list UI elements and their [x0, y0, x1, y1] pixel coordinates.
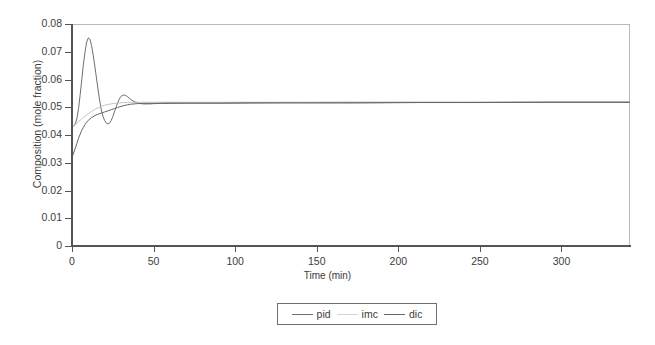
x-tick	[154, 247, 155, 252]
x-tick-label: 300	[553, 255, 571, 267]
y-tick	[65, 246, 71, 247]
x-axis-title: Time (min)	[0, 270, 655, 281]
y-tick-label: 0.02	[42, 185, 62, 196]
series-line-pid	[72, 38, 630, 127]
y-tick	[65, 52, 71, 53]
y-tick-label: 0.08	[42, 18, 62, 29]
series-line-imc	[72, 102, 630, 127]
y-tick	[65, 24, 71, 25]
legend-label: dic	[409, 309, 422, 320]
legend-swatch-pid-icon	[292, 314, 313, 315]
legend-label: pid	[317, 309, 331, 320]
legend-swatch-imc-icon	[337, 314, 358, 315]
y-tick-label: 0.03	[42, 157, 62, 168]
x-tick	[317, 247, 318, 252]
x-tick-label: 150	[308, 255, 326, 267]
legend-swatch-dic-icon	[384, 314, 405, 315]
y-tick	[65, 135, 71, 136]
y-tick	[65, 191, 71, 192]
y-tick	[65, 218, 71, 219]
x-axis-line	[71, 245, 631, 247]
x-tick	[398, 247, 399, 252]
y-axis-line	[71, 24, 73, 247]
y-tick	[65, 80, 71, 81]
x-tick	[72, 247, 73, 252]
x-tick-label: 0	[69, 255, 75, 267]
y-tick-label: 0	[56, 240, 62, 251]
y-axis-title: Composition (mole fraction)	[31, 9, 43, 239]
y-tick-label: 0.06	[42, 74, 62, 85]
y-tick-label: 0.07	[42, 46, 62, 57]
x-tick-label: 250	[471, 255, 489, 267]
y-tick-label: 0.05	[42, 101, 62, 112]
x-tick	[480, 247, 481, 252]
chart-figure: 00.010.020.030.040.050.060.070.08 050100…	[0, 0, 655, 345]
legend-entry-imc: imc	[337, 309, 378, 320]
x-tick-label: 50	[148, 255, 160, 267]
y-tick	[65, 163, 71, 164]
legend-entry-pid: pid	[292, 309, 331, 320]
legend-label: imc	[362, 309, 378, 320]
y-tick-label: 0.01	[42, 212, 62, 223]
x-tick	[235, 247, 236, 252]
series-line-dic	[72, 102, 630, 157]
chart-legend: pidimcdic	[277, 303, 437, 325]
x-tick-label: 200	[390, 255, 408, 267]
x-tick-label: 100	[226, 255, 244, 267]
x-tick	[561, 247, 562, 252]
plot-lines	[72, 24, 630, 246]
y-tick-label: 0.04	[42, 129, 62, 140]
y-tick	[65, 107, 71, 108]
legend-entry-dic: dic	[384, 309, 422, 320]
